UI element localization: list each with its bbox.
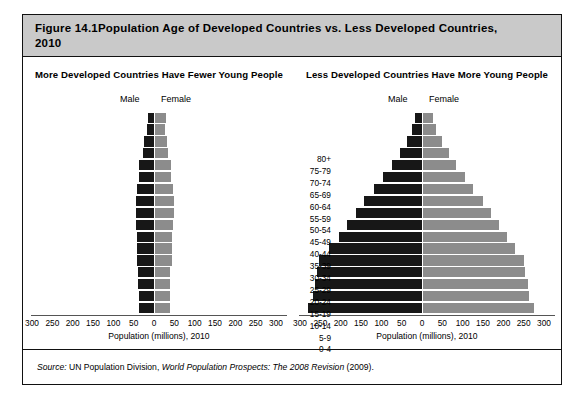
pyramid-row — [293, 124, 561, 136]
bar-female-35-39 — [423, 220, 499, 230]
pyramid-row — [293, 207, 561, 219]
bar-male-80+ — [148, 113, 154, 123]
bar-male-80+ — [415, 113, 422, 123]
bar-male-55-59 — [383, 172, 422, 182]
figure-title-line1: Population Age of Developed Countries vs… — [98, 22, 498, 34]
figure-header-line1: Figure 14.1Population Age of Developed C… — [35, 21, 551, 36]
age-group-label: 10-14 — [285, 321, 331, 333]
bar-female-75-79 — [155, 124, 165, 134]
axis-tick-label: 50 — [129, 318, 138, 328]
bar-female-20-24 — [423, 255, 524, 265]
source-prefix: Source: — [37, 362, 67, 372]
axis-tick-label: 300 — [269, 318, 283, 328]
bar-female-60-64 — [423, 160, 456, 170]
age-group-label: 50-54 — [285, 225, 331, 237]
age-group-label: 5-9 — [285, 333, 331, 345]
axis-tick-label: 50 — [397, 318, 406, 328]
pyramid-row — [25, 279, 293, 291]
figure-title-line2: 2010 — [35, 36, 551, 51]
bar-female-25-29 — [155, 243, 172, 253]
figure-number: Figure 14.1 — [35, 21, 98, 36]
pyramid-row — [293, 183, 561, 195]
pyramid-row — [293, 243, 561, 255]
pyramid-row — [293, 291, 561, 303]
bar-female-25-29 — [423, 243, 515, 253]
pyramid-row — [25, 219, 293, 231]
bar-male-30-34 — [137, 232, 154, 242]
bar-male-65-69 — [400, 148, 422, 158]
bar-male-45-49 — [136, 196, 154, 206]
bar-female-75-79 — [423, 124, 436, 134]
panel-left-legend: Male Female — [25, 94, 293, 106]
bar-male-35-39 — [136, 220, 154, 230]
bar-female-35-39 — [155, 220, 173, 230]
bar-female-30-34 — [423, 232, 507, 242]
axis-tick-label: 0 — [420, 318, 425, 328]
age-group-label: 45-49 — [285, 237, 331, 249]
bar-male-25-29 — [329, 243, 422, 253]
pyramid-plot-less-developed — [293, 112, 561, 315]
age-group-labels: 80+75-7970-7465-6960-6455-5950-5445-4940… — [285, 154, 331, 357]
age-group-label: 75-79 — [285, 166, 331, 178]
pyramid-row — [25, 255, 293, 267]
panel-right-legend: Male Female — [293, 94, 561, 106]
pyramid-row — [293, 255, 561, 267]
pyramid-row — [25, 195, 293, 207]
pyramid-row — [293, 231, 561, 243]
axis-ticks-left: 30025020015010050050100150200250300 — [25, 318, 293, 330]
bar-male-65-69 — [143, 148, 154, 158]
bar-female-50-54 — [155, 184, 173, 194]
bar-female-0-4 — [423, 303, 534, 313]
bar-female-80+ — [423, 113, 433, 123]
axis-tick-label: 0 — [152, 318, 157, 328]
pyramid-row — [25, 124, 293, 136]
axis-tick-label: 300 — [25, 318, 39, 328]
bar-female-5-9 — [155, 291, 170, 301]
bar-female-60-64 — [155, 160, 171, 170]
bar-male-50-54 — [137, 184, 154, 194]
pyramid-row — [25, 243, 293, 255]
axis-tick-label: 50 — [170, 318, 179, 328]
age-group-label: 25-29 — [285, 285, 331, 297]
pyramid-row — [25, 207, 293, 219]
bar-male-20-24 — [319, 255, 422, 265]
bar-female-80+ — [155, 113, 166, 123]
axis-tick-label: 200 — [334, 318, 348, 328]
bar-male-70-74 — [144, 136, 154, 146]
bar-male-60-64 — [139, 160, 154, 170]
bar-male-70-74 — [407, 136, 422, 146]
pyramid-row — [25, 136, 293, 148]
axis-tick-label: 250 — [45, 318, 59, 328]
bar-male-60-64 — [392, 160, 422, 170]
bar-male-55-59 — [139, 172, 154, 182]
bar-male-75-79 — [147, 124, 154, 134]
axis-line-left — [31, 315, 287, 316]
bar-male-50-54 — [374, 184, 422, 194]
bar-female-15-19 — [423, 267, 525, 277]
bar-male-45-49 — [364, 196, 422, 206]
axis-tick-label: 250 — [249, 318, 263, 328]
pyramid-row — [25, 160, 293, 172]
panel-less-developed: Less Developed Countries Have More Young… — [293, 57, 561, 349]
axis-tick-label: 150 — [354, 318, 368, 328]
bar-female-20-24 — [155, 255, 172, 265]
age-group-label: 35-39 — [285, 261, 331, 273]
pyramid-row — [25, 267, 293, 279]
pyramid-row — [25, 112, 293, 124]
bar-male-20-24 — [137, 255, 154, 265]
bar-female-30-34 — [155, 232, 172, 242]
axis-tick-label: 250 — [517, 318, 531, 328]
bar-female-10-14 — [423, 279, 528, 289]
bar-female-5-9 — [423, 291, 529, 301]
axis-tick-label: 100 — [374, 318, 388, 328]
bar-female-50-54 — [423, 184, 473, 194]
bar-female-10-14 — [155, 279, 170, 289]
bar-female-45-49 — [155, 196, 174, 206]
axis-tick-label: 100 — [106, 318, 120, 328]
source-work-title: World Population Prospects: The 2008 Rev… — [162, 362, 344, 372]
charts-area: More Developed Countries Have Fewer Youn… — [23, 57, 561, 349]
bar-female-70-74 — [155, 136, 167, 146]
bar-male-40-44 — [356, 208, 422, 218]
source-note: Source: UN Population Division, World Po… — [23, 349, 561, 386]
age-group-label: 40-44 — [285, 249, 331, 261]
